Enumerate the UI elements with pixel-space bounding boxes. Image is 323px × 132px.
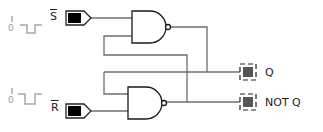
r-pulse-low-label: 0 <box>8 96 14 105</box>
nand-gate-top <box>132 11 171 43</box>
not-q-output-label: NOT Q <box>265 97 301 108</box>
s-input-toggle[interactable] <box>66 11 91 25</box>
q-output-label: Q <box>265 67 274 78</box>
not-q-output-indicator <box>240 94 256 110</box>
s-input-label: S <box>50 11 57 22</box>
circuit-diagram <box>0 0 323 132</box>
q-output-indicator <box>240 64 256 80</box>
r-input-label: R <box>51 102 59 113</box>
s-pulse-low-label: 0 <box>8 24 14 33</box>
r-pulse-waveform-icon <box>12 88 42 104</box>
nand-gate-bottom <box>128 87 167 119</box>
r-input-toggle[interactable] <box>66 104 91 118</box>
s-pulse-waveform-icon <box>12 16 42 33</box>
